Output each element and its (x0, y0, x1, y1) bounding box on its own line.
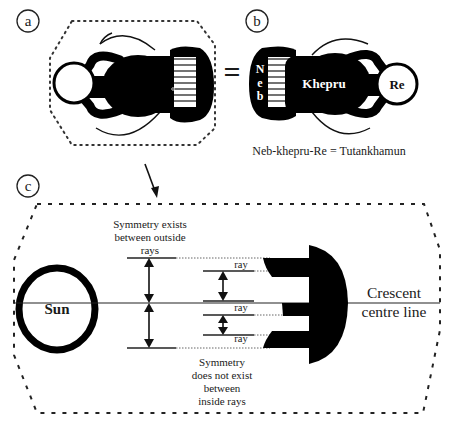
svg-text:Symmetry exists: Symmetry exists (113, 218, 187, 230)
svg-text:Symmetry: Symmetry (199, 356, 245, 368)
neb-letter-b: b (257, 89, 264, 103)
sun-disc-a (54, 63, 94, 103)
neb-letter-e: e (257, 76, 263, 90)
re-label: Re (389, 77, 404, 92)
svg-text:centre line: centre line (362, 303, 427, 320)
scarab-glyph-a (54, 33, 214, 135)
svg-text:does not exist: does not exist (192, 369, 253, 381)
svg-text:c: c (25, 178, 32, 194)
svg-text:b: b (253, 13, 261, 29)
ray-label-middle: ray (234, 302, 248, 313)
svg-text:a: a (25, 13, 32, 29)
panel-a: a (17, 10, 215, 145)
inside-rays-note: Symmetry does not exist between inside r… (192, 356, 253, 407)
scarab-glyph-b: N e b Khepru Re (249, 39, 417, 134)
panel-b-caption: Neb-khepru-Re = Tutankhamun (252, 144, 405, 158)
svg-text:inside rays: inside rays (198, 395, 245, 407)
khepru-label: Khepru (302, 76, 345, 91)
equals-sign: = (223, 55, 240, 88)
pointer-arrow (145, 164, 159, 198)
crescent-centre-line-label: Crescent centre line (362, 284, 427, 320)
panel-c-label: c (17, 175, 39, 197)
neb-letter-n: N (256, 62, 265, 76)
outside-rays-note: Symmetry exists between outside rays (113, 218, 187, 256)
ray-label-bottom: ray (234, 333, 248, 344)
figure: a (0, 0, 456, 429)
svg-text:rays: rays (141, 244, 159, 256)
svg-text:between: between (204, 382, 241, 394)
svg-text:between outside: between outside (114, 231, 185, 243)
svg-text:Crescent: Crescent (367, 284, 422, 301)
panel-c: c Sun (14, 175, 440, 413)
panel-a-label: a (17, 10, 39, 32)
panel-b-label: b (246, 10, 268, 32)
panel-b: b (246, 10, 417, 158)
ray-label-top: ray (234, 259, 248, 270)
crescent-glyph (263, 245, 348, 364)
